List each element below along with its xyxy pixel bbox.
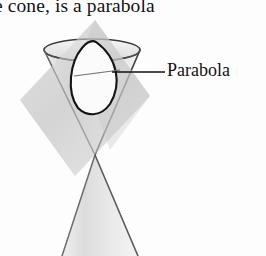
parabola-label: Parabola	[167, 60, 230, 80]
conic-section-diagram	[0, 0, 266, 256]
figure-page: e cone, is a parabola	[0, 0, 266, 256]
